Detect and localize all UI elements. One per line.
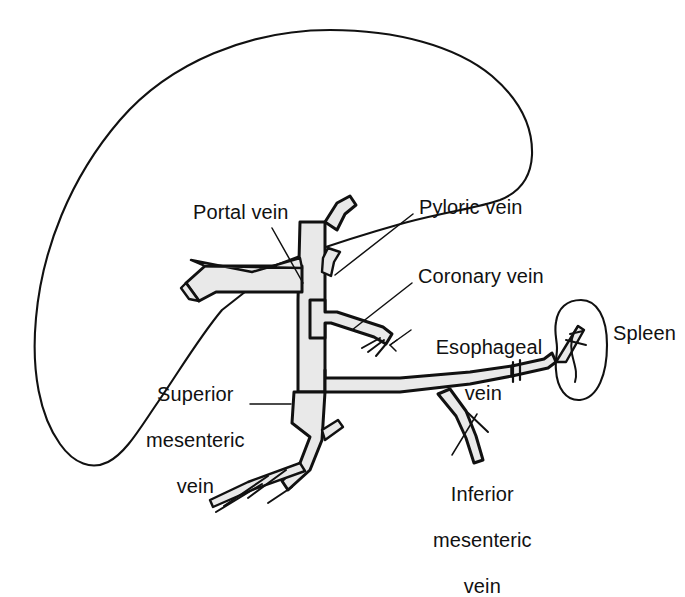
smv-tributary-5 (268, 487, 292, 503)
leader-esophageal-arrowhead (390, 340, 397, 351)
label-inferior-mesenteric-vein: Inferior mesenteric vein (404, 460, 538, 597)
label-superior-mesenteric-vein-line2: mesenteric (146, 429, 245, 451)
label-portal-vein: Portal vein (193, 201, 289, 224)
label-inferior-mesenteric-vein-line1: Inferior (451, 483, 514, 505)
label-superior-mesenteric-vein-line3: vein (177, 475, 214, 497)
label-spleen: Spleen (613, 322, 676, 345)
label-esophageal-vein-line2: vein (465, 382, 502, 404)
esophageal-vein-tributary-3 (362, 338, 380, 348)
label-esophageal-vein-line1: Esophageal (436, 336, 543, 358)
label-inferior-mesenteric-vein-line3: vein (464, 575, 501, 597)
label-superior-mesenteric-vein: Superior mesenteric vein (118, 360, 250, 521)
label-inferior-mesenteric-vein-line2: mesenteric (433, 529, 532, 551)
pyloric-vein-branch (322, 248, 340, 276)
label-coronary-vein: Coronary vein (418, 265, 544, 288)
label-pyloric-vein: Pyloric vein (419, 196, 522, 219)
label-superior-mesenteric-vein-line1: Superior (157, 383, 233, 405)
smv-tributary-right (322, 420, 343, 440)
label-esophageal-vein: Esophageal vein (413, 313, 531, 428)
leader-coronary-vein (352, 283, 412, 330)
